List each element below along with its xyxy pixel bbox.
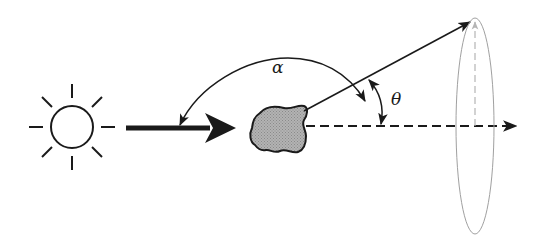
scattering-diagram [0, 0, 542, 246]
incident-beam-arrow [126, 113, 236, 143]
particle-shape [250, 106, 307, 153]
theta-angle-arc [369, 80, 382, 124]
alpha-label: α [272, 59, 283, 76]
theta-label: θ [391, 91, 401, 108]
sun-icon [29, 84, 115, 170]
